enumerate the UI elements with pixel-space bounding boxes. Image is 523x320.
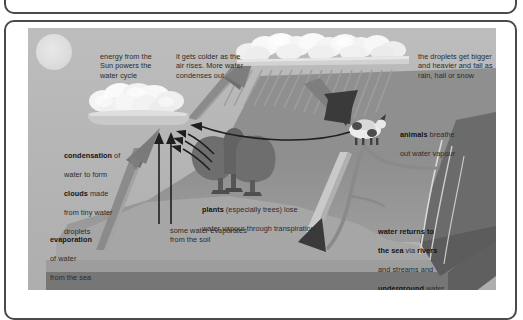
label-condensation-l3: made bbox=[88, 189, 109, 198]
label-returns-rivers: rivers bbox=[417, 246, 437, 255]
label-condensation-l1: of bbox=[112, 151, 120, 160]
label-animals-term: animals bbox=[400, 130, 428, 139]
diagram-scene: energy from the Sun powers the water cyc… bbox=[28, 28, 496, 290]
label-condensation-term: condensation bbox=[64, 151, 112, 160]
label-condensation-l4: from tiny water bbox=[64, 208, 113, 217]
label-returns-sea: the sea bbox=[378, 246, 404, 255]
label-returns-l3: and streams and bbox=[378, 265, 433, 274]
label-evaporation-l2: of water bbox=[50, 254, 76, 263]
label-plants-transpiration: plants (especially trees) lose water vap… bbox=[202, 196, 347, 234]
label-air-cools: it gets colder as the air rises. More wa… bbox=[176, 52, 264, 80]
label-evaporation-term: evaporation bbox=[50, 235, 92, 244]
cumulus-cloud-icon bbox=[80, 83, 196, 131]
label-plants-l1: (especially trees) lose bbox=[224, 205, 298, 214]
label-returns-underground: underground bbox=[378, 284, 424, 290]
label-droplets-fall: the droplets get bigger and heavier and … bbox=[418, 52, 496, 80]
label-animals-l2: out water vapour bbox=[400, 149, 455, 158]
label-returns-l1: water returns to bbox=[378, 227, 434, 236]
label-condensation-l2: water to form bbox=[64, 170, 107, 179]
label-animals-l1: breathe bbox=[428, 130, 455, 139]
label-plants-l2: water vapour through transpiration bbox=[202, 224, 315, 233]
label-plants-term: plants bbox=[202, 205, 224, 214]
label-evaporation: evaporation of water from the sea bbox=[50, 226, 120, 282]
label-condensation: condensation of water to form clouds mad… bbox=[64, 142, 136, 236]
label-returns-via: via bbox=[404, 246, 418, 255]
label-water-returns: water returns to the sea via rivers and … bbox=[378, 218, 470, 290]
water-cycle-diagram-panel: energy from the Sun powers the water cyc… bbox=[4, 20, 517, 320]
label-clouds-term: clouds bbox=[64, 189, 88, 198]
label-returns-l4: water bbox=[424, 284, 444, 290]
upper-panel-frame bbox=[4, 0, 517, 14]
label-animals-breathe: animals breathe out water vapour bbox=[400, 121, 492, 159]
label-energy-from-sun: energy from the Sun powers the water cyc… bbox=[100, 52, 178, 80]
label-evaporation-l3: from the sea bbox=[50, 273, 91, 282]
